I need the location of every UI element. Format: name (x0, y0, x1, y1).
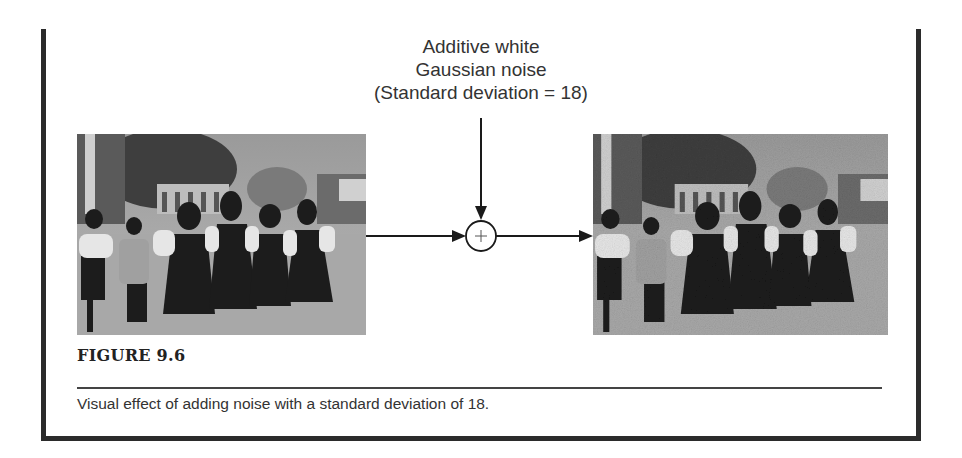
arrow-right-icon (452, 230, 466, 242)
figure-caption: Visual effect of adding noise with a sta… (77, 395, 489, 413)
title-rule-divider (77, 387, 882, 389)
arrow-right-icon (579, 230, 593, 242)
arrow-down-icon (475, 206, 487, 220)
signal-flow-diagram (0, 0, 962, 458)
adder-icon (466, 221, 496, 251)
figure-title: FIGURE 9.6 (77, 346, 185, 365)
